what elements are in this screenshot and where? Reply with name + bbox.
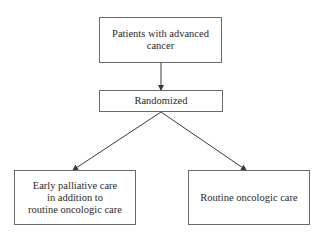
arrow-randomized-to-early-palliative (73, 112, 161, 170)
early-palliative-care-label: Early palliative care in addition to rou… (28, 180, 122, 216)
population-label: Patients with advanced cancer (112, 28, 209, 52)
randomized-box: Randomized (99, 90, 223, 112)
randomized-label: Randomized (134, 95, 187, 107)
routine-oncologic-care-label: Routine oncologic care (200, 192, 297, 204)
arrow-randomized-to-routine (161, 112, 246, 170)
routine-oncologic-care-box: Routine oncologic care (188, 170, 310, 225)
population-box: Patients with advanced cancer (99, 17, 222, 63)
early-palliative-care-box: Early palliative care in addition to rou… (14, 170, 136, 225)
flowchart-canvas: Patients with advanced cancer Randomized… (0, 0, 321, 236)
